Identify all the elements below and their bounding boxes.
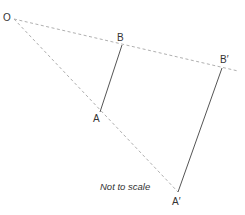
label-a-prime: A′ <box>172 197 181 207</box>
label-o: O <box>3 13 11 23</box>
label-a: A <box>93 114 100 124</box>
label-b-prime: B′ <box>220 55 229 65</box>
not-to-scale-note: Not to scale <box>100 182 150 192</box>
segment-ab <box>100 45 122 112</box>
enlargement-diagram: O B A B′ A′ Not to scale <box>0 0 245 215</box>
ray-o-b-prime <box>14 19 238 71</box>
label-b: B <box>117 33 124 43</box>
segment-a-prime-b-prime <box>178 68 222 192</box>
ray-o-a-prime <box>14 19 178 192</box>
